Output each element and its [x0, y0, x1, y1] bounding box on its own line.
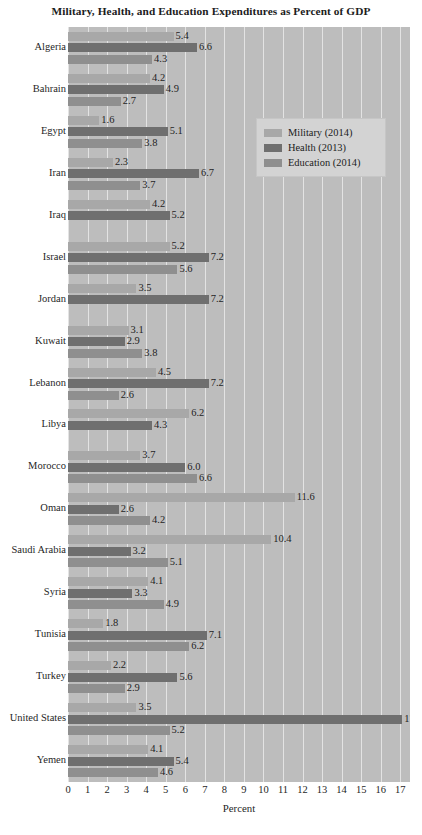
x-tick-label: 0 — [65, 784, 70, 795]
bar-value-label: 2.9 — [125, 683, 140, 692]
bar-value-label: 3.2 — [131, 546, 146, 555]
bar-value-label: 7.2 — [209, 378, 224, 387]
category-label: Egypt — [2, 125, 66, 136]
bar-education — [68, 265, 177, 274]
legend-label: Military (2014) — [288, 127, 352, 138]
bar-education — [68, 474, 197, 483]
bar-military — [68, 703, 136, 712]
bar-military — [68, 74, 150, 83]
bar-value-label: 4.2 — [150, 199, 165, 208]
bar-military — [68, 158, 113, 167]
x-tick-label: 3 — [124, 784, 129, 795]
chart-title: Military, Health, and Education Expendit… — [0, 5, 422, 17]
x-tick-label: 7 — [202, 784, 207, 795]
bar-value-label: 1.6 — [99, 115, 114, 124]
bar-value-label: 6.6 — [197, 473, 212, 482]
bar-education — [68, 97, 121, 106]
bar-military — [68, 619, 103, 628]
bar-education — [68, 642, 189, 651]
bar-value-label: 10.4 — [271, 534, 291, 543]
bar-value-label: 6.2 — [189, 408, 204, 417]
x-tick-label: 12 — [297, 784, 308, 795]
bar-military — [68, 284, 136, 293]
x-tick-label: 5 — [163, 784, 168, 795]
bar-health — [68, 295, 209, 304]
bar-value-label: 4.9 — [164, 599, 179, 608]
bar-value-label: 4.3 — [152, 420, 167, 429]
bar-education — [68, 55, 152, 64]
bar-military — [68, 451, 140, 460]
bar-value-label: 2.9 — [125, 336, 140, 345]
bar-health — [68, 505, 119, 514]
bar-value-label: 2.3 — [113, 157, 128, 166]
category-label: Morocco — [2, 460, 66, 471]
gridline — [185, 27, 186, 782]
bar-value-label: 2.6 — [119, 504, 134, 513]
bar-health — [68, 631, 207, 640]
category-label: Israel — [2, 251, 66, 262]
gridline — [224, 27, 225, 782]
bar-education — [68, 684, 125, 693]
chart-legend: Military (2014)Health (2013)Education (2… — [256, 118, 386, 177]
bar-value-label: 6.0 — [185, 462, 200, 471]
x-tick-label: 15 — [356, 784, 367, 795]
category-label: Libya — [2, 418, 66, 429]
category-label: Algeria — [2, 41, 66, 52]
bar-value-label: 6.6 — [197, 42, 212, 51]
legend-swatch-icon — [264, 129, 282, 137]
x-tick-label: 1 — [85, 784, 90, 795]
x-tick-label: 17 — [395, 784, 406, 795]
category-label: Saudi Arabia — [2, 544, 66, 555]
bar-health — [68, 757, 174, 766]
category-label: United States — [2, 712, 66, 723]
category-label: Jordan — [2, 293, 66, 304]
legend-label: Education (2014) — [288, 157, 360, 168]
bar-value-label: 17.1 — [402, 714, 410, 723]
bar-military — [68, 577, 148, 586]
bar-value-label: 5.4 — [174, 31, 189, 40]
bar-military — [68, 535, 271, 544]
bar-health — [68, 169, 199, 178]
bar-education — [68, 391, 119, 400]
bar-military — [68, 200, 150, 209]
category-label: Bahrain — [2, 83, 66, 94]
category-label: Yemen — [2, 754, 66, 765]
bar-value-label: 4.5 — [156, 367, 171, 376]
bar-health — [68, 421, 152, 430]
gridline — [400, 27, 401, 782]
bar-military — [68, 326, 129, 335]
legend-item-military[interactable]: Military (2014) — [264, 125, 378, 140]
bar-value-label: 3.8 — [142, 348, 157, 357]
bar-military — [68, 493, 295, 502]
bar-education — [68, 600, 164, 609]
bar-military — [68, 661, 111, 670]
category-label: Lebanon — [2, 377, 66, 388]
category-label: Iraq — [2, 209, 66, 220]
legend-item-education[interactable]: Education (2014) — [264, 155, 378, 170]
x-tick-label: 6 — [183, 784, 188, 795]
bar-health — [68, 43, 197, 52]
bar-education — [68, 516, 150, 525]
bar-health — [68, 547, 131, 556]
bar-health — [68, 127, 168, 136]
bar-health — [68, 85, 164, 94]
bar-value-label: 3.7 — [140, 180, 155, 189]
bar-value-label: 7.2 — [209, 252, 224, 261]
bar-value-label: 4.1 — [148, 744, 163, 753]
x-tick-label: 13 — [317, 784, 328, 795]
bar-value-label: 6.2 — [189, 641, 204, 650]
bar-value-label: 5.2 — [170, 241, 185, 250]
legend-label: Health (2013) — [288, 142, 346, 153]
bar-value-label: 6.7 — [199, 168, 214, 177]
gridline — [205, 27, 206, 782]
bar-military — [68, 32, 174, 41]
x-tick-label: 8 — [222, 784, 227, 795]
legend-item-health[interactable]: Health (2013) — [264, 140, 378, 155]
legend-swatch-icon — [264, 159, 282, 167]
bar-education — [68, 349, 142, 358]
x-tick-label: 16 — [375, 784, 386, 795]
bar-health — [68, 673, 177, 682]
gridline — [244, 27, 245, 782]
bar-education — [68, 139, 142, 148]
bar-value-label: 5.1 — [168, 557, 183, 566]
